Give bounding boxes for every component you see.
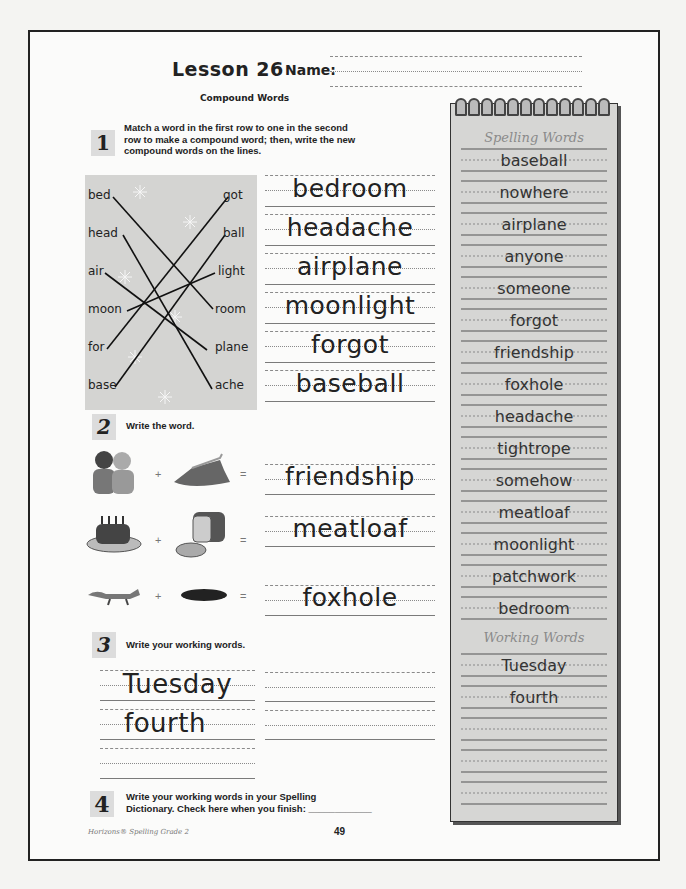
spelling-word: somehow [451, 471, 617, 490]
spelling-word: foxhole [451, 375, 617, 394]
section-1-instructions: Match a word in the first row to one in … [124, 122, 434, 157]
first-row-word: bed [88, 188, 111, 202]
plus-sign: + [155, 468, 161, 480]
first-row-word: for [88, 340, 105, 354]
section-2-number: 2 [92, 414, 116, 440]
compound-answer[interactable]: airplane [265, 252, 435, 281]
second-row-word: got [223, 188, 243, 202]
section-3-instructions: Write your working words. [126, 639, 245, 651]
friends-picture-icon [88, 448, 138, 500]
first-row-word: head [88, 226, 118, 240]
plus-sign: + [155, 590, 161, 602]
hole-picture-icon [180, 588, 228, 606]
spelling-word: friendship [451, 343, 617, 362]
equals-sign: = [240, 534, 246, 546]
loaf-picture-icon [175, 510, 227, 564]
equals-sign: = [240, 590, 246, 602]
word-answer[interactable]: meatloaf [265, 514, 435, 543]
spelling-word: patchwork [451, 567, 617, 586]
second-row-word: ache [215, 378, 244, 392]
word-answer[interactable]: friendship [265, 462, 435, 491]
section-4-number: 4 [90, 791, 114, 817]
section-2-instructions: Write the word. [126, 420, 194, 432]
publisher-footer: Horizons® Spelling Grade 2 [88, 828, 189, 836]
spelling-word: meatloaf [451, 503, 617, 522]
working-words-heading: Working Words [451, 630, 617, 645]
compound-answer[interactable]: forgot [265, 330, 435, 359]
compound-answer[interactable]: bedroom [265, 174, 435, 203]
working-word: Tuesday [451, 656, 617, 675]
spelling-word: airplane [451, 215, 617, 234]
spelling-word: nowhere [451, 183, 617, 202]
spelling-word: anyone [451, 247, 617, 266]
spelling-word: tightrope [451, 439, 617, 458]
second-row-word: ball [223, 226, 245, 240]
working-word-answer[interactable]: fourth [100, 708, 230, 738]
equals-sign: = [240, 468, 246, 480]
section-3-number: 3 [92, 632, 116, 658]
second-row-word: room [215, 302, 246, 316]
second-row-word: plane [215, 340, 248, 354]
section-4-instructions: Write your working words in your Spellin… [126, 791, 446, 814]
lesson-subtitle: Compound Words [200, 93, 289, 103]
name-label: Name: [285, 62, 336, 78]
working-word: fourth [451, 688, 617, 707]
spelling-word: bedroom [451, 599, 617, 618]
name-line-top [330, 56, 582, 57]
ship-picture-icon [172, 452, 232, 496]
meat-picture-icon [86, 510, 142, 558]
matching-lines [85, 175, 257, 410]
name-field[interactable] [330, 86, 582, 87]
second-row-word: light [218, 264, 245, 278]
first-row-word: moon [88, 302, 122, 316]
spelling-word: headache [451, 407, 617, 426]
first-row-word: base [88, 378, 117, 392]
spelling-word: someone [451, 279, 617, 298]
compound-answer[interactable]: moonlight [265, 291, 435, 320]
page-number: 49 [334, 826, 345, 837]
spelling-word: forgot [451, 311, 617, 330]
spelling-notebook: Spelling Words [450, 103, 618, 822]
compound-answer[interactable]: baseball [265, 369, 435, 398]
spelling-word: baseball [451, 151, 617, 170]
notebook-lines [451, 104, 617, 821]
working-word-answer[interactable]: Tuesday [100, 669, 255, 699]
spelling-word: moonlight [451, 535, 617, 554]
first-row-word: air [88, 264, 104, 278]
plus-sign: + [155, 534, 161, 546]
section-1-number: 1 [91, 130, 115, 156]
word-matching-box: bed head air moon for base got ball ligh… [85, 175, 257, 410]
lesson-title: Lesson 26 [172, 58, 284, 80]
word-answer[interactable]: foxhole [265, 583, 435, 612]
fox-picture-icon [86, 585, 142, 611]
name-line-mid [330, 71, 582, 72]
compound-answer[interactable]: headache [265, 213, 435, 242]
